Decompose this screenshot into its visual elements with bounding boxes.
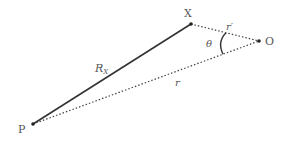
geometry-diagram: X O P RX r r′ θ — [0, 0, 292, 141]
label-p: P — [18, 123, 26, 136]
label-r: r — [175, 77, 181, 88]
point-p — [31, 122, 35, 126]
point-o — [257, 39, 261, 43]
segment-xo — [191, 24, 259, 41]
segment-px — [33, 24, 191, 124]
angle-arc — [221, 33, 226, 54]
point-x — [189, 22, 193, 26]
segment-po — [33, 41, 259, 124]
label-theta: θ — [206, 38, 212, 49]
label-o: O — [265, 35, 274, 48]
label-rx: RX — [94, 62, 109, 76]
label-r-prime: r′ — [226, 21, 234, 32]
label-x: X — [184, 7, 192, 20]
diagram-canvas: X O P RX r r′ θ — [0, 0, 292, 141]
